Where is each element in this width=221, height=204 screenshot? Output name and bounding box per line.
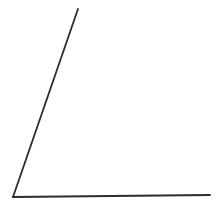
figure-canvas: Acute angle formed by two rays [0,0,221,204]
figure-background [0,0,221,204]
angle-diagram: Acute angle formed by two rays [0,0,221,204]
vertex-point [12,196,14,198]
